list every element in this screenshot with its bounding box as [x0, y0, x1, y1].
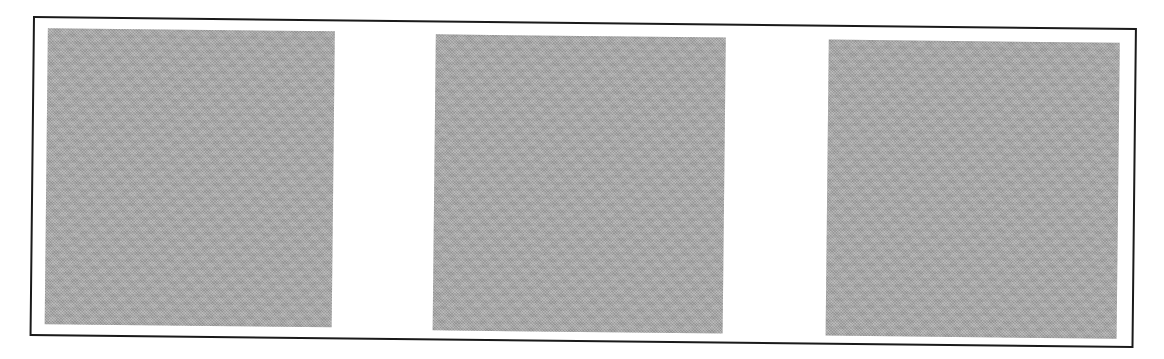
figure-frame — [30, 16, 1137, 348]
gray-panel-3 — [826, 40, 1120, 339]
gray-panel-1 — [45, 28, 335, 327]
gray-panel-2 — [433, 34, 726, 333]
